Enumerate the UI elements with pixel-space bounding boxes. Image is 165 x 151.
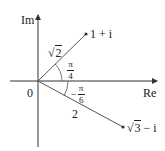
angle-sign: − (71, 89, 77, 100)
sqrt-symbol: √ (127, 121, 134, 135)
vector-1-plus-i (38, 34, 86, 81)
sqrt-symbol: √ (48, 46, 55, 60)
angle-denominator: 4 (68, 72, 73, 81)
sqrt-radicand: 3 (134, 120, 141, 135)
angle-arc-pi-over-4 (55, 64, 62, 81)
angle-fraction: π 6 (78, 84, 85, 105)
modulus-label-sqrt2: √2 (48, 46, 62, 61)
angle-numerator: π (68, 60, 73, 69)
imaginary-axis-label: Im (21, 14, 34, 26)
point-label-sqrt3-minus-i: √3 − i (127, 121, 157, 136)
origin-label: 0 (27, 87, 33, 99)
angle-numerator: π (79, 84, 84, 93)
real-axis-label: Re (143, 87, 156, 99)
modulus-label-2: 2 (72, 108, 78, 120)
angle-label-pi-over-4: π 4 (67, 60, 74, 81)
label-rest: − i (141, 121, 157, 135)
sqrt-radicand: 2 (55, 45, 62, 60)
angle-label-minus-pi-over-6: − π 6 (71, 84, 85, 105)
point-sqrt3-minus-i (121, 125, 124, 128)
point-label-1-plus-i: 1 + i (90, 28, 112, 40)
point-1-plus-i (84, 32, 87, 35)
angle-arc-minus-pi-over-6 (64, 81, 68, 96)
angle-denominator: 6 (79, 96, 84, 105)
